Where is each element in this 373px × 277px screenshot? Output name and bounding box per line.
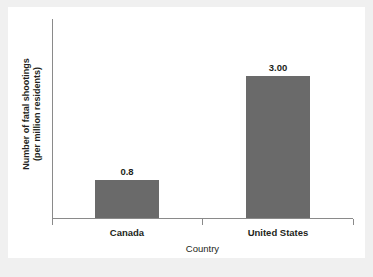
x-axis-tick-middle <box>202 219 203 225</box>
y-axis-title-line2: (per million residents) <box>32 34 43 194</box>
chart-card: Number of fatal shootings (per million r… <box>8 7 365 258</box>
x-axis-tick-right <box>353 219 354 225</box>
y-axis-title: Number of fatal shootings (per million r… <box>21 34 43 194</box>
y-axis-title-line1: Number of fatal shootings <box>21 34 32 194</box>
x-axis-tick-left <box>52 219 53 225</box>
bar-value-label-canada: 0.8 <box>95 166 159 177</box>
chart-page: Number of fatal shootings (per million r… <box>0 0 373 277</box>
x-axis-category-label-canada: Canada <box>87 227 167 238</box>
x-axis-category-label-united-states: United States <box>230 227 326 238</box>
bar-united-states[interactable] <box>246 76 310 218</box>
bar-value-label-united-states: 3.00 <box>246 62 310 73</box>
y-axis-line <box>52 19 53 219</box>
x-axis-title: Country <box>52 243 353 254</box>
bar-chart-figure: Number of fatal shootings (per million r… <box>8 7 365 258</box>
bar-canada[interactable] <box>95 180 159 218</box>
